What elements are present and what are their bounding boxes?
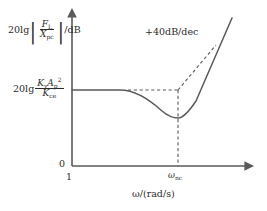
gain-numerator-symbol-1: K bbox=[37, 78, 44, 88]
corner-frequency-tick-label: ωnc bbox=[168, 171, 182, 180]
y-axis-zero-tick-label: 0 bbox=[59, 159, 65, 169]
gain-fraction-numerator: KvAp2 bbox=[35, 79, 63, 89]
numerator-symbol: F bbox=[42, 19, 48, 29]
y-axis-fraction-denominator: Xpc bbox=[38, 30, 56, 39]
corner-frequency-symbol: ω bbox=[168, 170, 175, 180]
y-axis-label-lead: 20lg bbox=[8, 25, 29, 35]
gain-numerator-exponent-2: 2 bbox=[58, 76, 62, 83]
gain-label-fraction: KvAp2 Kce bbox=[35, 79, 63, 99]
corner-frequency-subscript: nc bbox=[175, 174, 182, 181]
numerator-subscript: L bbox=[48, 23, 52, 30]
denominator-subscript: pc bbox=[46, 33, 53, 40]
gain-numerator-symbol-2: A bbox=[47, 78, 54, 88]
x-axis-label: ω/(rad/s) bbox=[132, 189, 175, 199]
gain-numerator-subscript-1: v bbox=[44, 82, 47, 89]
gain-denominator-subscript: ce bbox=[49, 92, 56, 99]
y-axis-label-fraction: FL Xpc bbox=[38, 20, 56, 40]
x-axis-start-tick-label: 1 bbox=[66, 172, 72, 182]
gain-numerator-subscript-2: p bbox=[54, 82, 58, 89]
y-axis-units: /dB bbox=[64, 25, 80, 35]
plateau-gain-label: 20lg KvAp2 Kce bbox=[13, 79, 65, 99]
slope-annotation-label: +40dB/dec bbox=[145, 27, 198, 37]
gain-label-lead: 20lg bbox=[13, 84, 34, 94]
bode-magnitude-figure: 20lg | FL Xpc | /dB 20lg KvAp2 Kce +40dB… bbox=[0, 0, 267, 211]
gain-fraction-denominator: Kce bbox=[41, 89, 59, 98]
y-axis-label: 20lg | FL Xpc | /dB bbox=[8, 20, 81, 40]
